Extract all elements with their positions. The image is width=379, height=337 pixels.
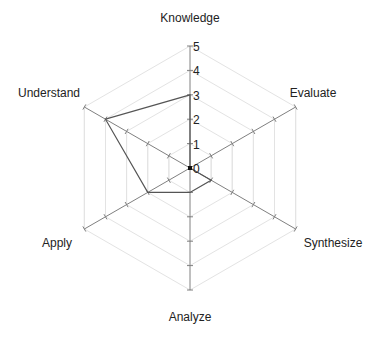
tick-label-2: 2 [193, 113, 200, 127]
axis-line-evaluate [190, 107, 296, 168]
axis-line-apply [84, 168, 190, 229]
center-marker [188, 166, 192, 170]
axis-label-knowledge: Knowledge [160, 11, 220, 25]
radar-chart: KnowledgeEvaluateSynthesizeAnalyzeApplyU… [0, 0, 379, 337]
tick-labels: 012345 [193, 40, 200, 176]
axis-label-understand: Understand [18, 86, 80, 100]
axis-line-understand [84, 107, 190, 168]
tick-label-1: 1 [193, 138, 200, 152]
axis-label-apply: Apply [42, 236, 72, 250]
axis-label-analyze: Analyze [169, 310, 212, 324]
axis-label-synthesize: Synthesize [304, 236, 363, 250]
tick-label-4: 4 [193, 64, 200, 78]
tick-label-3: 3 [193, 89, 200, 103]
tick-label-5: 5 [193, 40, 200, 54]
tick-label-0: 0 [193, 162, 200, 176]
axis-label-evaluate: Evaluate [290, 86, 337, 100]
